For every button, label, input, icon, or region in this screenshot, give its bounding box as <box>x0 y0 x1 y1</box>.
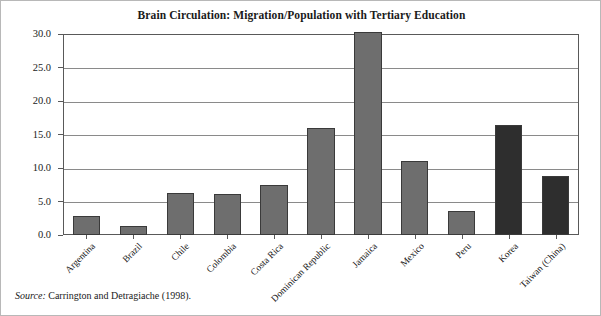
x-tick-label: Jamaica <box>350 241 379 270</box>
y-tick-label: 30.0 <box>33 29 51 39</box>
y-tick-label: 25.0 <box>33 63 51 73</box>
bar <box>354 32 381 235</box>
y-tick-label: 15.0 <box>33 130 51 140</box>
bar <box>260 185 287 235</box>
y-tick-label: 20.0 <box>33 96 51 106</box>
x-tick-label: Taiwan (China) <box>518 241 567 290</box>
x-tick-label: Brazil <box>121 241 144 264</box>
bar <box>307 128 334 235</box>
x-tick-label: Argentina <box>64 241 98 275</box>
x-tick-label: Mexico <box>398 241 426 269</box>
page-title: Brain Circulation: Migration/Population … <box>1 9 601 21</box>
bar <box>120 226 147 235</box>
x-tick-label: Chile <box>170 241 192 263</box>
bar <box>448 211 475 235</box>
x-tick-label: Korea <box>496 241 519 264</box>
bar <box>495 125 522 235</box>
x-tick-label: Costa Rica <box>249 241 285 277</box>
x-tick-label: Peru <box>453 241 472 260</box>
bar <box>401 161 428 235</box>
figure-page: Brain Circulation: Migration/Population … <box>0 0 601 316</box>
bar <box>167 193 194 235</box>
source-label: Source: <box>15 290 46 301</box>
bars-layer <box>63 34 579 235</box>
bar <box>73 216 100 235</box>
y-axis-labels: 0.05.010.015.020.025.030.0 <box>1 34 57 235</box>
y-tick-label: 5.0 <box>38 197 51 207</box>
source-text: Carrington and Detragiache (1998). <box>46 290 191 301</box>
x-tick-label: Colombia <box>205 241 239 275</box>
bar <box>214 194 241 235</box>
bar <box>542 176 569 235</box>
y-tick-label: 10.0 <box>33 163 51 173</box>
y-tick-label: 0.0 <box>38 230 51 240</box>
source-note: Source: Carrington and Detragiache (1998… <box>15 290 191 301</box>
